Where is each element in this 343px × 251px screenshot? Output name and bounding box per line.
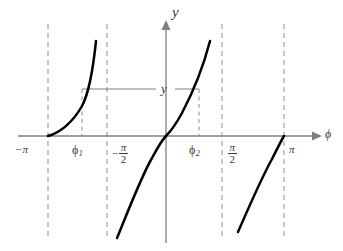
curve-branch-middle bbox=[117, 41, 210, 238]
phi-1-subscript: 1 bbox=[79, 149, 83, 158]
tick-label-pi: π bbox=[289, 144, 295, 155]
fraction-denominator-2-right: 2 bbox=[228, 154, 237, 165]
curve-branch-left bbox=[48, 41, 96, 136]
curve-branch-right bbox=[238, 136, 284, 232]
x-axis-arrowhead bbox=[312, 132, 322, 141]
fraction-pi-over-2-right: π2 bbox=[228, 142, 237, 165]
tangent-function-figure: y ϕ y −π ϕ1 −π2 ϕ2 π2 π bbox=[0, 0, 343, 251]
tick-label-phi-1: ϕ1 bbox=[72, 144, 83, 158]
y-axis-label: y bbox=[172, 5, 179, 20]
y-level-label: y bbox=[161, 82, 167, 95]
fraction-pi-over-2-left: π2 bbox=[119, 142, 128, 165]
tick-label-minus-pi: −π bbox=[15, 144, 28, 155]
minus-sign-left: − bbox=[112, 148, 118, 159]
y-axis-arrowhead bbox=[162, 20, 171, 30]
x-axis-label: ϕ bbox=[325, 128, 331, 140]
tick-label-minus-pi-over-2: −π2 bbox=[112, 142, 128, 165]
tick-label-pi-over-2: π2 bbox=[228, 142, 237, 165]
tick-label-phi-2: ϕ2 bbox=[189, 144, 200, 158]
plot-canvas bbox=[0, 0, 343, 251]
phi-1-base: ϕ bbox=[72, 143, 78, 157]
phi-2-base: ϕ bbox=[189, 143, 195, 157]
fraction-denominator-2-left: 2 bbox=[119, 154, 128, 165]
phi-2-subscript: 2 bbox=[196, 149, 200, 158]
